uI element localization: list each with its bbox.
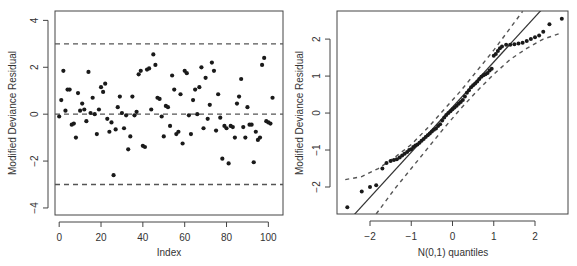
- data-point: [525, 39, 529, 43]
- qq-plot-panel: −2−1012 −2−1012 N(0,1) quantiles Modifie…: [294, 0, 576, 258]
- data-point: [105, 117, 109, 121]
- data-point: [68, 87, 72, 91]
- data-point: [235, 102, 239, 106]
- data-point: [193, 87, 197, 91]
- chart-canvas: 020406080100 −4−2024 Index Modified Devi…: [0, 0, 577, 266]
- y-tick-label: 2: [29, 64, 40, 70]
- data-point: [517, 42, 521, 46]
- y-tick-label: −2: [311, 181, 322, 193]
- data-point: [237, 94, 241, 98]
- data-point: [74, 136, 78, 140]
- data-point: [168, 124, 172, 128]
- envelope-upper: [345, 11, 522, 179]
- data-point: [139, 69, 143, 73]
- y-tick-label: −4: [29, 202, 40, 214]
- data-point: [153, 63, 157, 67]
- data-point: [63, 109, 67, 113]
- data-point: [84, 119, 88, 123]
- data-point: [180, 141, 184, 145]
- data-point: [157, 97, 161, 101]
- data-point: [109, 120, 113, 124]
- data-point: [529, 37, 533, 41]
- y-tick-label: 0: [29, 111, 40, 117]
- data-point: [463, 94, 467, 98]
- data-point: [380, 167, 384, 171]
- data-point: [128, 134, 132, 138]
- data-point: [252, 160, 256, 164]
- data-point: [374, 183, 378, 187]
- data-point: [178, 92, 182, 96]
- data-point: [143, 145, 147, 149]
- data-points: [345, 17, 564, 210]
- data-point: [122, 126, 126, 130]
- y-axis: −2−1012: [311, 36, 330, 193]
- data-point: [204, 76, 208, 80]
- x-tick-label: −1: [406, 231, 418, 242]
- x-tick-label: 20: [95, 232, 107, 243]
- x-tick-label: 60: [179, 232, 191, 243]
- x-tick-label: 2: [532, 231, 538, 242]
- data-point: [111, 173, 115, 177]
- data-point: [345, 205, 349, 209]
- data-point: [162, 134, 166, 138]
- y-tick-label: 2: [311, 36, 322, 42]
- data-point: [537, 33, 541, 37]
- data-point: [134, 110, 138, 114]
- data-point: [268, 121, 272, 125]
- data-point: [120, 111, 124, 115]
- data-point: [88, 111, 92, 115]
- data-point: [97, 107, 101, 111]
- data-point: [187, 113, 191, 117]
- data-point: [231, 125, 235, 129]
- data-point: [126, 147, 130, 151]
- data-point: [101, 90, 105, 94]
- data-point: [218, 116, 222, 120]
- x-tick-label: 0: [56, 232, 62, 243]
- data-point: [260, 63, 264, 67]
- data-point: [91, 96, 95, 100]
- data-point: [107, 130, 111, 134]
- data-point: [57, 114, 61, 118]
- data-point: [130, 94, 134, 98]
- data-point: [490, 67, 494, 71]
- data-point: [78, 109, 82, 113]
- data-point: [227, 161, 231, 165]
- data-point: [270, 96, 274, 100]
- y-axis-label: Modified Deviance Residual: [7, 51, 18, 175]
- data-point: [176, 130, 180, 134]
- data-point: [241, 125, 245, 129]
- data-point: [93, 112, 97, 116]
- x-axis: 020406080100: [56, 222, 277, 243]
- figure: 020406080100 −4−2024 Index Modified Devi…: [0, 0, 577, 266]
- x-axis-label: Index: [157, 247, 181, 258]
- data-point: [206, 117, 210, 121]
- data-point: [461, 98, 465, 102]
- data-point: [95, 132, 99, 136]
- data-point: [151, 52, 155, 56]
- data-point: [368, 185, 372, 189]
- data-point: [500, 44, 504, 48]
- data-point: [210, 60, 214, 64]
- y-axis-label: Modified Deviance Residual: [294, 51, 305, 175]
- data-point: [233, 136, 237, 140]
- data-point: [99, 85, 103, 89]
- x-axis-label: N(0,1) quantiles: [418, 247, 489, 258]
- data-point: [116, 105, 120, 109]
- data-point: [118, 94, 122, 98]
- data-point: [208, 103, 212, 107]
- data-point: [103, 82, 107, 86]
- data-point: [82, 107, 86, 111]
- data-point: [172, 87, 176, 91]
- y-tick-label: 4: [29, 17, 40, 23]
- y-tick-label: 0: [311, 110, 322, 116]
- data-point: [132, 113, 136, 117]
- y-tick-label: −2: [29, 155, 40, 167]
- data-point: [254, 130, 258, 134]
- data-point: [216, 92, 220, 96]
- data-point: [504, 43, 508, 47]
- data-point: [191, 98, 195, 102]
- y-axis: −4−2024: [29, 17, 48, 214]
- data-point: [114, 127, 118, 131]
- data-point: [262, 56, 266, 60]
- data-point: [197, 85, 201, 89]
